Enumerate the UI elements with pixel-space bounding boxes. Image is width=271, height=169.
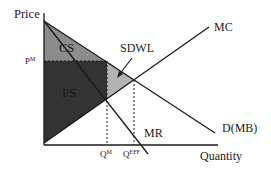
mc-label: MC bbox=[214, 20, 233, 34]
ps-label: PS bbox=[62, 86, 76, 100]
sdwl-pointer-arrow bbox=[119, 58, 132, 75]
qm-tick-label: QM bbox=[100, 149, 113, 159]
sdwl-label: SDWL bbox=[120, 41, 154, 55]
monopoly-diagram: Price Quantity MC D(MB) MR CS PS SDWL PM… bbox=[0, 0, 271, 169]
demand-label: D(MB) bbox=[222, 121, 257, 135]
qeff-tick-label: QEFF bbox=[123, 149, 141, 159]
producer-surplus-region bbox=[44, 61, 107, 143]
cs-label: CS bbox=[59, 41, 74, 55]
x-axis-label: Quantity bbox=[200, 149, 242, 163]
mr-label: MR bbox=[144, 126, 163, 140]
pm-tick-label: PM bbox=[25, 56, 36, 66]
deadweight-loss-region bbox=[107, 61, 134, 99]
y-axis-label: Price bbox=[14, 7, 40, 21]
